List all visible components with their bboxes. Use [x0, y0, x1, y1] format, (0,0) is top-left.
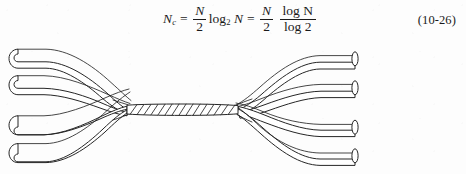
fraction-numerator: log N	[280, 4, 316, 19]
fraction-denominator: 2	[261, 20, 272, 35]
right-wire-end-2	[352, 81, 358, 95]
fraction-n-over-2-first: N 2	[193, 4, 206, 34]
left-wire-group	[9, 49, 131, 162]
log-base-subscript: 2	[226, 17, 230, 27]
equals-sign-2: =	[247, 11, 255, 27]
right-wire-group	[235, 52, 358, 166]
subscript-c: c	[172, 17, 176, 27]
log-text: log	[209, 11, 226, 26]
cable-braid	[127, 104, 238, 115]
equation-number: (10-26)	[418, 13, 456, 28]
fraction-log-ratio: log N log 2	[280, 4, 316, 34]
equation-expression: Nc = N 2 log2 N = N 2 log N log 2	[163, 4, 317, 34]
cable-figure	[0, 42, 466, 174]
fraction-numerator: N	[260, 4, 273, 19]
fraction-denominator: 2	[194, 20, 205, 35]
log-base-2-term: log2 N	[209, 11, 243, 27]
fraction-numerator: N	[193, 4, 206, 19]
symbol-N-c: N	[163, 11, 172, 26]
right-wire-end-4	[352, 149, 358, 163]
log-argument: N	[234, 11, 243, 26]
fraction-n-over-2-second: N 2	[260, 4, 273, 34]
right-wire-end-3	[352, 120, 358, 134]
equals-sign-1: =	[180, 11, 188, 27]
figure-page: Nc = N 2 log2 N = N 2 log N log 2	[0, 0, 466, 174]
equation-row: Nc = N 2 log2 N = N 2 log N log 2	[0, 0, 466, 42]
left-wire-4	[9, 110, 127, 163]
equation-lhs: Nc	[163, 11, 176, 27]
right-wire-end-1	[352, 52, 358, 66]
cable-diagram-svg	[0, 42, 466, 174]
fraction-denominator: log 2	[281, 20, 314, 35]
right-wire-1	[238, 62, 355, 114]
